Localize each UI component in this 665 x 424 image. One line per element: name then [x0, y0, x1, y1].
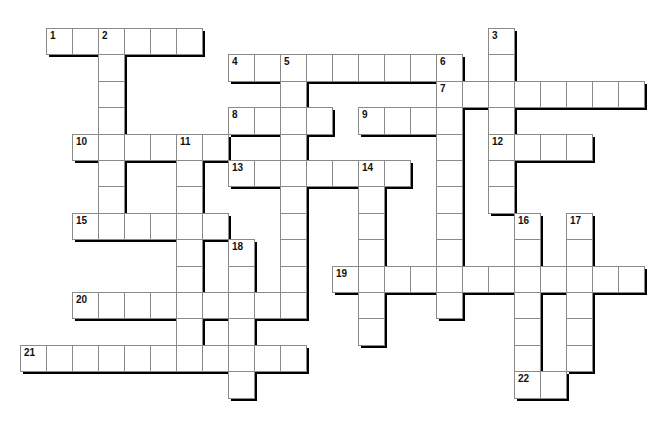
crossword-cell[interactable]	[176, 345, 203, 372]
crossword-cell[interactable]	[358, 266, 385, 293]
crossword-cell[interactable]	[618, 266, 645, 293]
crossword-cell[interactable]	[436, 160, 463, 187]
crossword-cell[interactable]	[358, 239, 385, 267]
crossword-cell[interactable]	[124, 28, 151, 55]
crossword-cell[interactable]	[514, 266, 541, 293]
crossword-cell[interactable]	[410, 54, 437, 82]
crossword-cell[interactable]	[98, 186, 125, 214]
crossword-cell[interactable]	[72, 345, 99, 372]
crossword-cell[interactable]	[98, 81, 125, 108]
crossword-cell[interactable]: 1	[46, 28, 73, 55]
crossword-cell[interactable]	[384, 160, 411, 187]
crossword-cell[interactable]	[98, 54, 125, 82]
crossword-cell[interactable]	[124, 292, 151, 319]
crossword-cell[interactable]	[150, 292, 177, 319]
crossword-cell[interactable]	[436, 213, 463, 240]
crossword-cell[interactable]	[540, 81, 567, 108]
crossword-cell[interactable]	[488, 266, 515, 293]
crossword-cell[interactable]: 18	[228, 239, 255, 267]
crossword-cell[interactable]	[358, 213, 385, 240]
crossword-cell[interactable]	[384, 107, 411, 135]
crossword-cell[interactable]	[410, 266, 437, 293]
crossword-cell[interactable]	[280, 107, 307, 135]
crossword-cell[interactable]	[306, 54, 333, 82]
crossword-cell[interactable]	[540, 134, 567, 161]
crossword-cell[interactable]	[176, 28, 203, 55]
crossword-cell[interactable]	[280, 345, 307, 372]
crossword-cell[interactable]	[592, 81, 619, 108]
crossword-cell[interactable]	[176, 318, 203, 346]
crossword-cell[interactable]: 14	[358, 160, 385, 187]
crossword-cell[interactable]	[436, 134, 463, 161]
crossword-cell[interactable]: 13	[228, 160, 255, 187]
crossword-cell[interactable]	[98, 213, 125, 240]
crossword-cell[interactable]	[514, 292, 541, 319]
crossword-cell[interactable]	[488, 160, 515, 187]
crossword-cell[interactable]: 5	[280, 54, 307, 82]
crossword-cell[interactable]	[72, 28, 99, 55]
crossword-cell[interactable]	[540, 266, 567, 293]
crossword-cell[interactable]	[280, 292, 307, 319]
crossword-cell[interactable]	[280, 160, 307, 187]
crossword-cell[interactable]	[176, 213, 203, 240]
crossword-cell[interactable]	[280, 213, 307, 240]
crossword-cell[interactable]	[540, 371, 567, 399]
crossword-cell[interactable]	[306, 160, 333, 187]
crossword-cell[interactable]	[358, 318, 385, 346]
crossword-cell[interactable]: 15	[72, 213, 99, 240]
crossword-cell[interactable]	[124, 345, 151, 372]
crossword-cell[interactable]	[228, 318, 255, 346]
crossword-cell[interactable]	[436, 292, 463, 319]
crossword-cell[interactable]	[98, 134, 125, 161]
crossword-cell[interactable]	[228, 292, 255, 319]
crossword-cell[interactable]: 7	[436, 81, 463, 108]
crossword-cell[interactable]	[358, 186, 385, 214]
crossword-cell[interactable]	[176, 186, 203, 214]
crossword-cell[interactable]	[280, 186, 307, 214]
crossword-cell[interactable]	[566, 134, 593, 161]
crossword-cell[interactable]	[436, 266, 463, 293]
crossword-cell[interactable]	[514, 239, 541, 267]
crossword-cell[interactable]	[488, 81, 515, 108]
crossword-cell[interactable]	[150, 213, 177, 240]
crossword-cell[interactable]	[98, 160, 125, 187]
crossword-cell[interactable]	[514, 81, 541, 108]
crossword-cell[interactable]	[202, 213, 229, 240]
crossword-cell[interactable]	[124, 213, 151, 240]
crossword-cell[interactable]	[488, 186, 515, 214]
crossword-cell[interactable]	[280, 134, 307, 161]
crossword-cell[interactable]	[176, 239, 203, 267]
crossword-cell[interactable]	[98, 345, 125, 372]
crossword-cell[interactable]	[332, 54, 359, 82]
crossword-cell[interactable]	[46, 345, 73, 372]
crossword-cell[interactable]	[98, 107, 125, 135]
crossword-cell[interactable]	[358, 54, 385, 82]
crossword-cell[interactable]: 21	[20, 345, 47, 372]
crossword-cell[interactable]	[202, 134, 229, 161]
crossword-cell[interactable]: 12	[488, 134, 515, 161]
crossword-cell[interactable]	[254, 160, 281, 187]
crossword-cell[interactable]	[176, 160, 203, 187]
crossword-cell[interactable]	[228, 371, 255, 399]
crossword-cell[interactable]	[124, 134, 151, 161]
crossword-cell[interactable]	[566, 239, 593, 267]
crossword-cell[interactable]	[566, 81, 593, 108]
crossword-cell[interactable]	[462, 81, 489, 108]
crossword-cell[interactable]	[332, 160, 359, 187]
crossword-cell[interactable]	[280, 266, 307, 293]
crossword-cell[interactable]	[358, 292, 385, 319]
crossword-cell[interactable]: 16	[514, 213, 541, 240]
crossword-cell[interactable]: 9	[358, 107, 385, 135]
crossword-cell[interactable]	[228, 266, 255, 293]
crossword-cell[interactable]	[280, 239, 307, 267]
crossword-cell[interactable]	[436, 107, 463, 135]
crossword-cell[interactable]	[98, 292, 125, 319]
crossword-cell[interactable]	[592, 266, 619, 293]
crossword-cell[interactable]	[566, 292, 593, 319]
crossword-cell[interactable]	[228, 345, 255, 372]
crossword-cell[interactable]	[488, 107, 515, 135]
crossword-cell[interactable]	[202, 345, 229, 372]
crossword-cell[interactable]	[254, 292, 281, 319]
crossword-cell[interactable]	[566, 345, 593, 372]
crossword-cell[interactable]	[410, 107, 437, 135]
